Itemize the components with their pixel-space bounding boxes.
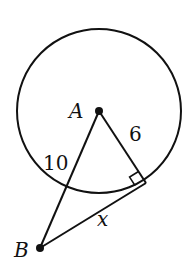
radius-label: 6: [129, 122, 142, 146]
point-a-label: A: [67, 99, 83, 123]
secant-label: 10: [43, 151, 68, 175]
tangent-label: x: [97, 207, 108, 231]
geometry-diagram: A B 6 10 x: [0, 0, 191, 272]
secant-segment: [40, 111, 99, 248]
point-b-label: B: [13, 238, 29, 262]
point-b-dot: [36, 244, 44, 252]
point-a-dot: [95, 107, 103, 115]
